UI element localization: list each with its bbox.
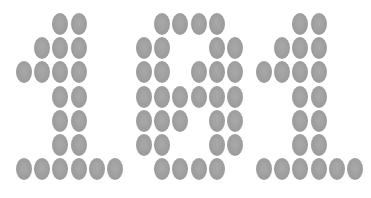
matrix-dot xyxy=(191,158,207,180)
digit-1-second xyxy=(0,0,120,198)
matrix-dot xyxy=(227,61,243,83)
matrix-dot xyxy=(154,13,170,35)
matrix-dot xyxy=(209,61,225,83)
matrix-dot xyxy=(136,61,152,83)
matrix-dot xyxy=(311,61,327,83)
matrix-dot xyxy=(154,158,170,180)
matrix-dot xyxy=(154,110,170,132)
matrix-dot xyxy=(292,134,308,156)
matrix-dot xyxy=(136,86,152,108)
matrix-dot xyxy=(227,134,243,156)
matrix-dot xyxy=(329,158,345,180)
matrix-dot xyxy=(292,158,308,180)
matrix-dot xyxy=(292,37,308,59)
matrix-dot xyxy=(136,110,152,132)
matrix-dot xyxy=(227,110,243,132)
matrix-dot xyxy=(347,158,363,180)
matrix-dot xyxy=(191,13,207,35)
matrix-dot xyxy=(311,158,327,180)
matrix-dot xyxy=(227,37,243,59)
matrix-dot xyxy=(172,110,188,132)
matrix-dot xyxy=(209,110,225,132)
matrix-dot xyxy=(172,158,188,180)
matrix-dot xyxy=(154,37,170,59)
matrix-dot xyxy=(209,134,225,156)
matrix-dot xyxy=(209,158,225,180)
matrix-dot xyxy=(172,13,188,35)
matrix-dot xyxy=(154,86,170,108)
matrix-dot xyxy=(274,37,290,59)
matrix-dot xyxy=(311,86,327,108)
matrix-dot xyxy=(227,86,243,108)
matrix-dot xyxy=(311,37,327,59)
matrix-dot xyxy=(292,61,308,83)
matrix-dot xyxy=(209,86,225,108)
matrix-dot xyxy=(292,86,308,108)
matrix-dot xyxy=(274,61,290,83)
matrix-dot xyxy=(209,13,225,35)
matrix-dot xyxy=(311,13,327,35)
matrix-dot xyxy=(172,86,188,108)
matrix-dot xyxy=(209,37,225,59)
matrix-dot xyxy=(311,110,327,132)
matrix-dot xyxy=(136,37,152,59)
matrix-dot xyxy=(154,61,170,83)
matrix-dot xyxy=(136,134,152,156)
matrix-dot xyxy=(191,86,207,108)
matrix-dot xyxy=(256,61,272,83)
matrix-dot xyxy=(292,13,308,35)
matrix-dot xyxy=(191,61,207,83)
matrix-dot xyxy=(154,134,170,156)
matrix-dot xyxy=(274,158,290,180)
dot-matrix-display xyxy=(0,0,371,198)
matrix-dot xyxy=(311,134,327,156)
matrix-dot xyxy=(292,110,308,132)
matrix-dot xyxy=(256,158,272,180)
